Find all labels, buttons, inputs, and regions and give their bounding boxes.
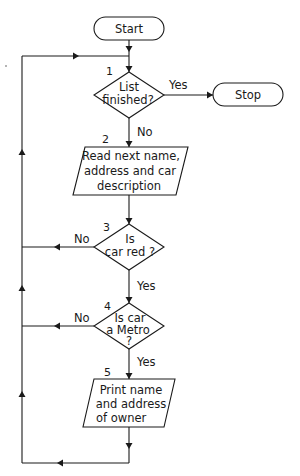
stray-dot bbox=[5, 65, 7, 67]
step-number: 3 bbox=[103, 221, 110, 234]
arrow-down-icon bbox=[126, 218, 133, 224]
edge-label-no: No bbox=[137, 125, 153, 139]
step-number: 4 bbox=[104, 300, 111, 313]
edge-label-yes: Yes bbox=[136, 279, 156, 293]
decision-label-line2: finished? bbox=[102, 93, 154, 107]
arrow-down-icon bbox=[126, 297, 133, 303]
decision-label-line1: Is bbox=[125, 232, 134, 246]
arrow-left-icon bbox=[54, 323, 60, 330]
arrow-right-icon bbox=[207, 92, 213, 99]
io-label-line3: description bbox=[97, 179, 161, 193]
decision-list-finished: 1 List finished? bbox=[94, 65, 164, 118]
arrow-left-icon bbox=[54, 244, 60, 251]
edge-label-yes: Yes bbox=[168, 78, 188, 92]
stop-terminal: Stop bbox=[213, 83, 283, 106]
arrow-down-icon bbox=[126, 46, 133, 52]
arrow-down-icon bbox=[126, 141, 133, 147]
io-label-line2: and address bbox=[96, 397, 166, 411]
step-number: 2 bbox=[102, 133, 109, 146]
io-label-line1: Read next name, bbox=[82, 149, 180, 163]
flowchart: Start 1 List finished? Yes Stop No 2 Rea… bbox=[0, 0, 300, 476]
edge-label-no: No bbox=[74, 232, 90, 246]
decision-label-line2: car red ? bbox=[105, 245, 155, 259]
arrow-down-icon bbox=[126, 66, 133, 72]
decision-car-red: 3 Is car red ? bbox=[94, 221, 164, 270]
step-number: 1 bbox=[106, 65, 113, 78]
io-label-line3: of owner bbox=[96, 411, 147, 425]
arrow-left-icon bbox=[57, 460, 63, 467]
arrow-up-icon bbox=[19, 391, 26, 397]
decision-car-metro: 4 Is car a Metro ? bbox=[94, 300, 164, 349]
arrow-right-icon bbox=[73, 53, 79, 60]
decision-label-line3: ? bbox=[126, 334, 132, 348]
decision-label-line1: List bbox=[119, 80, 140, 94]
edge-label-yes: Yes bbox=[136, 355, 156, 369]
stop-label: Stop bbox=[235, 88, 261, 102]
arrow-up-icon bbox=[19, 285, 26, 291]
arrow-down-icon bbox=[126, 443, 133, 449]
io-label-line2: address and car bbox=[84, 164, 176, 178]
step-number: 5 bbox=[104, 366, 111, 379]
arrow-up-icon bbox=[19, 149, 26, 155]
io-label-line1: Print name bbox=[100, 383, 163, 397]
arrow-down-icon bbox=[126, 373, 133, 379]
start-terminal: Start bbox=[94, 17, 164, 40]
edge-label-no: No bbox=[74, 311, 90, 325]
start-label: Start bbox=[115, 22, 144, 36]
